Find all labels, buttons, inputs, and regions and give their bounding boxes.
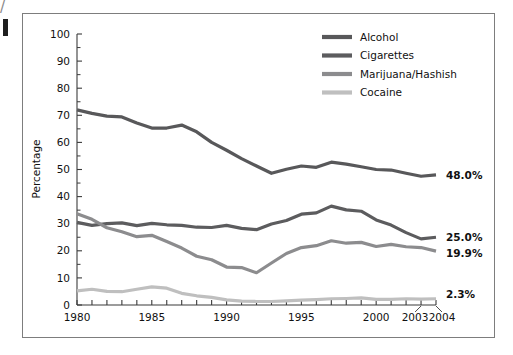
page-edge-artifact-middle: / [0, 0, 7, 15]
end-label-alcohol: 48.0% [446, 169, 483, 181]
y-tick-label: 10 [57, 272, 70, 284]
y-tick-label: 30 [57, 217, 70, 229]
y-tick-label: 50 [57, 163, 70, 175]
x-tick-label: 1985 [138, 311, 165, 323]
y-axis-title: Percentage [30, 139, 42, 198]
page-edge-artifact-top [3, 19, 8, 36]
y-tick-label: 80 [57, 82, 70, 94]
y-tick-label: 60 [57, 136, 70, 148]
end-label-cigarettes: 25.0% [446, 231, 483, 243]
legend-label: Cigarettes [360, 49, 414, 61]
series-end-labels: 48.0%25.0%19.9%2.3% [446, 169, 483, 300]
x-axis-tick-labels: 1980198519901995200020032004 [64, 311, 456, 323]
figure-root: / 0102030405060708090100 198019851990199… [0, 0, 513, 355]
y-tick-label: 90 [57, 55, 70, 67]
legend-label: Alcohol [360, 31, 398, 43]
x-tick-label: 1995 [288, 311, 315, 323]
chart-legend: AlcoholCigarettesMarijuana/HashishCocain… [322, 31, 457, 99]
x-tick-label: 2003 [402, 311, 429, 323]
y-tick-label: 0 [63, 299, 70, 311]
x-tick-label: 1990 [213, 311, 240, 323]
series-group [77, 110, 436, 302]
y-tick-label: 100 [50, 28, 70, 40]
x-tick-label: 1980 [64, 311, 91, 323]
line-chart: 0102030405060708090100 19801985199019952… [22, 13, 495, 338]
end-label-cocaine: 2.3% [446, 288, 476, 300]
series-line-cocaine [77, 287, 436, 302]
x-tick-label: 2004 [429, 311, 456, 323]
legend-label: Cocaine [360, 86, 402, 98]
x-tick-label: 2000 [363, 311, 390, 323]
y-tick-label: 40 [57, 190, 70, 202]
y-axis-tick-labels: 0102030405060708090100 [50, 28, 70, 311]
y-tick-label: 20 [57, 244, 70, 256]
legend-label: Marijuana/Hashish [360, 68, 457, 80]
series-line-alcohol [77, 110, 436, 176]
y-tick-label: 70 [57, 109, 70, 121]
end-label-marijuana-hashish: 19.9% [446, 247, 483, 259]
